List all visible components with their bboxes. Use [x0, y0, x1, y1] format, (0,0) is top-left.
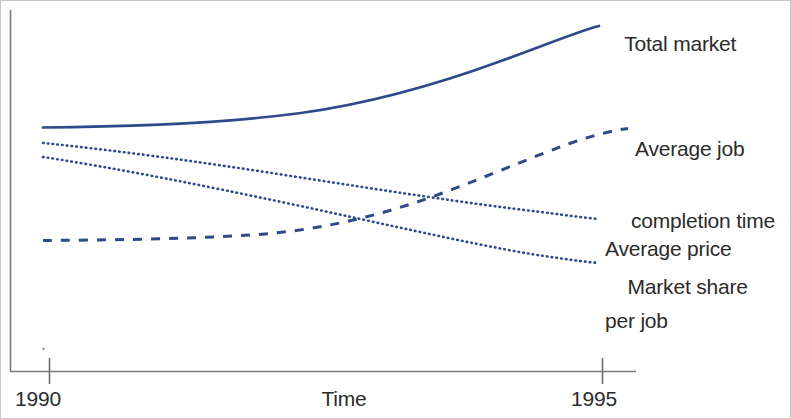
series-label-total-market: Total market	[602, 8, 736, 80]
series-line-market-share	[43, 157, 599, 263]
series-label-market-share: Market share	[605, 251, 748, 323]
x-axis-title: Time	[299, 387, 389, 411]
series-line-average-job-completion-time	[43, 129, 628, 241]
x-axis-tick-label-start: 1990	[15, 387, 61, 411]
x-axis-tick-label-end: 1995	[571, 387, 617, 411]
chart-figure: Total market Average job completion time…	[0, 0, 791, 419]
series-label-market-share-text: Market share	[628, 275, 748, 298]
scan-speck	[43, 348, 45, 351]
series-label-total-market-text: Total market	[624, 32, 736, 55]
series-line-total-market	[43, 26, 599, 128]
series-line-average-price-per-job	[43, 143, 599, 219]
series-label-avg-job-line-1: Average job	[635, 137, 775, 161]
